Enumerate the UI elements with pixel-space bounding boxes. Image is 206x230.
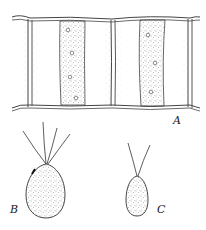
flagella-b — [23, 122, 70, 164]
panel-label-a: A — [173, 115, 181, 126]
zoospore-panel-b — [23, 122, 70, 218]
middle-cross-wall — [111, 20, 112, 106]
bottom-wall — [12, 105, 200, 108]
panel-label-b: B — [10, 204, 18, 215]
zoospore-body-b — [26, 164, 65, 218]
gamete-body-c — [126, 176, 148, 216]
panel-label-c: C — [157, 204, 165, 215]
flagella-c — [128, 143, 150, 176]
top-wall — [12, 16, 200, 19]
chloroplast-band-1 — [60, 21, 85, 105]
filament-panel-a — [12, 16, 200, 111]
gamete-panel-c — [126, 143, 150, 216]
